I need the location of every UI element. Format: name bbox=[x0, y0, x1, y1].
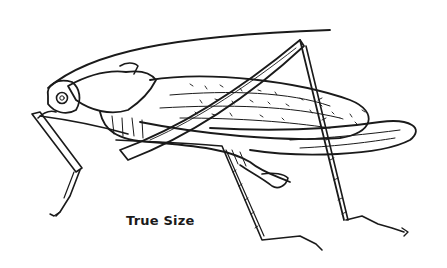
illustration-canvas: True Size bbox=[0, 0, 447, 268]
abdomen-tip bbox=[240, 165, 288, 188]
middle-leg bbox=[116, 140, 322, 250]
hind-tibia bbox=[300, 40, 344, 220]
katydid-drawing bbox=[0, 0, 447, 268]
pronotum bbox=[68, 71, 156, 112]
eye bbox=[57, 93, 68, 104]
caption-true-size: True Size bbox=[126, 213, 194, 228]
antenna bbox=[48, 30, 330, 88]
wing-veins bbox=[160, 93, 400, 148]
hind-tarsus bbox=[346, 216, 404, 232]
